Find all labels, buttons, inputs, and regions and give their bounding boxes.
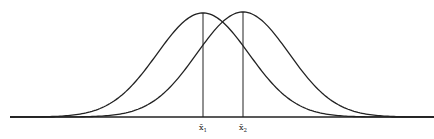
mean-label-1: x̄1 [199, 123, 207, 133]
normal-curve-2 [10, 12, 434, 117]
mean-label-2: x̄2 [239, 123, 247, 133]
normal-curve-1 [10, 13, 434, 117]
normal-curves-diagram: x̄1 x̄2 [0, 0, 434, 139]
